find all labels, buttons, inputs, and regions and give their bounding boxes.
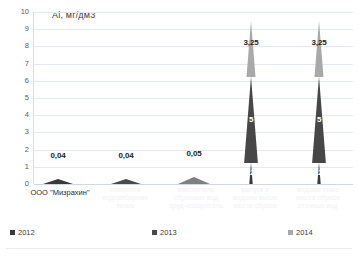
data-label: 0,04 <box>119 151 134 160</box>
data-label: 1,25 <box>312 168 327 177</box>
x-axis-tick-label: сточных вод <box>298 202 338 211</box>
x-axis-tick-label: ООО "Мизрахин" <box>30 188 89 197</box>
y-axis-tick-label: 9 <box>3 25 29 33</box>
y-axis-tick-label: 7 <box>3 60 29 68</box>
y-axis: 109876543210 <box>0 12 29 184</box>
y-axis-tick-label: 5 <box>3 94 29 102</box>
legend-label: 2014 <box>296 228 313 237</box>
y-axis-tick-label: 0 <box>3 180 29 188</box>
legend-swatch-icon <box>10 230 15 235</box>
data-label: 3,25 <box>312 38 327 47</box>
data-label: 5 <box>249 115 253 124</box>
legend-item-2013[interactable]: 2013 <box>152 228 177 237</box>
legend-swatch-icon <box>288 230 293 235</box>
bar-segment <box>238 21 264 77</box>
bar-cone <box>178 177 210 184</box>
legend-swatch-icon <box>152 230 157 235</box>
data-label: 0,05 <box>187 149 202 158</box>
stacked-bar-cone: 1,2553,25 <box>238 21 264 184</box>
gridline <box>34 184 353 185</box>
y-axis-tick-label: 4 <box>3 111 29 119</box>
y-axis-tick-label: 8 <box>3 43 29 51</box>
stacked-bar-cone: 1,2553,25 <box>306 21 332 184</box>
legend-item-2014[interactable]: 2014 <box>288 228 313 237</box>
data-label: 3,25 <box>244 38 259 47</box>
bar-segment <box>306 21 332 77</box>
x-axis-tick-label: точка <box>116 202 134 211</box>
legend-item-2012[interactable]: 2012 <box>10 228 35 237</box>
bar-cone <box>43 179 73 184</box>
data-label: 0,04 <box>51 151 66 160</box>
chart-container: Al, мг/дм3 109876543210 0,040,040,051,25… <box>0 0 358 257</box>
bar-cone <box>111 179 141 184</box>
y-axis-tick-label: 6 <box>3 77 29 85</box>
chart-legend: 201220132014 <box>0 228 358 248</box>
legend-divider <box>6 248 352 249</box>
x-axis-tick-label: места сброса <box>233 202 277 211</box>
plot-area: 0,040,040,051,2553,251,2553,25 <box>33 12 353 184</box>
y-axis-tick-label: 10 <box>3 8 29 16</box>
y-axis-tick-label: 3 <box>3 129 29 137</box>
y-axis-tick-label: 2 <box>3 146 29 154</box>
legend-label: 2013 <box>160 228 177 237</box>
data-label: 5 <box>317 115 321 124</box>
data-label: 1,25 <box>244 168 259 177</box>
legend-label: 2012 <box>18 228 35 237</box>
gridline <box>34 12 353 13</box>
y-axis-tick-label: 1 <box>3 163 29 171</box>
x-axis-tick-label: пруд-испаритель <box>169 202 224 211</box>
